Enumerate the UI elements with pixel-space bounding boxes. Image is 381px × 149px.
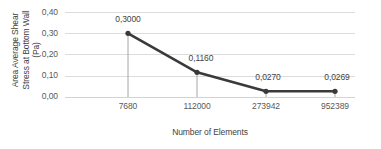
x-tick-label: 273942 [252,101,280,111]
x-tick-label: 7680 [119,101,138,111]
x-tick-label: 952389 [321,101,349,111]
y-tick-label: 0,30 [24,29,58,38]
y-axis-ticks: 0,40 0,30 0,20 0,10 0,00 [20,0,58,149]
series-polyline [128,33,335,91]
data-label: 0,0269 [324,73,349,82]
x-axis-line [65,97,355,98]
data-point-marker [263,89,268,94]
plot-area: 0,3000 0,1160 0,0270 0,0269 [65,12,355,97]
data-point-marker [332,89,337,94]
line-chart: Area Average Shear Stress at Bottom Wall… [0,0,381,149]
x-axis-title: Number of Elements [65,127,355,137]
y-tick-label: 0,40 [24,8,58,17]
y-tick-label: 0,00 [24,92,58,101]
data-point-marker [125,31,130,36]
data-label: 0,0270 [255,73,280,82]
x-tick-label: 112000 [183,101,210,111]
data-label: 0,1160 [189,54,214,63]
y-tick-label: 0,20 [24,50,58,59]
data-label: 0,3000 [115,15,140,24]
data-point-marker [194,70,199,75]
x-axis-ticks: 7680 112000 273942 952389 [65,101,355,115]
y-tick-label: 0,10 [24,71,58,80]
